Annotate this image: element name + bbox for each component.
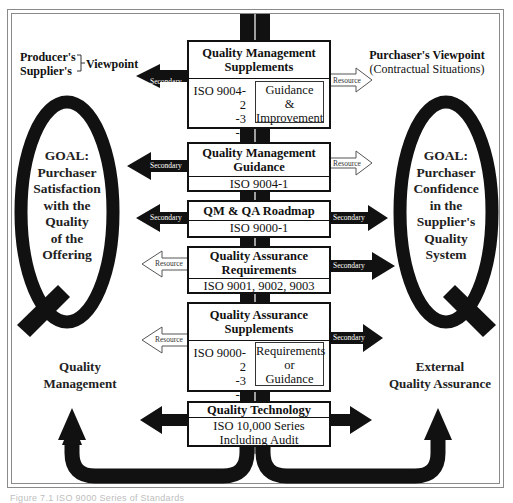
title-line: Quality Assurance [189,249,329,263]
title-line: Quality Management [189,46,329,60]
arrow-label-box3-left: Secondary [150,213,182,222]
arrow-label-box4-left: Resource [155,259,183,268]
iso-line: -3 [191,374,246,388]
title-line: QM & QA Roadmap [189,204,329,218]
box-title: Quality Assurance Supplements [189,304,329,336]
goal-line: of the [25,231,109,248]
right-up-arrowhead [424,408,452,440]
box-title: Quality Management Supplements [189,42,329,74]
arrow-box6-right [330,406,372,434]
inner-box-guidance-improvement: Guidance & Improvement [255,81,324,123]
title-line: Supplements [189,322,329,336]
box-title: Quality Management Guidance [189,144,329,174]
producer-label: Producer's [20,50,76,64]
arrow-label-box2-left: Secondary [150,161,182,170]
box-qm-qa-roadmap: QM & QA Roadmap ISO 9000-1 [187,200,331,238]
divider [189,78,329,79]
figure-caption: Figure 7.1 ISO 9000 Series of Standards [10,493,184,503]
iso-label: ISO 9004-1 [189,177,329,191]
purchaser-subtitle: (Contractual Situations) [347,62,507,76]
purchaser-viewpoint: Purchaser's Viewpoint (Contractual Situa… [347,48,507,76]
arrow-label-box4-right: Secondary [333,261,365,270]
goal-line: Supplier's [404,214,488,231]
box-quality-technology: Quality Technology ISO 10,000 Series Inc… [187,401,331,447]
arrow-label-box5-left: Resource [155,335,183,344]
goal-line: Confidence [404,181,488,198]
goal-right: GOAL: Purchaser Confidence in the Suppli… [404,148,488,264]
box-qa-requirements: Quality Assurance Requirements ISO 9001,… [187,246,331,294]
arrow-box6-left [140,406,188,434]
title-line: Supplements [189,60,329,74]
inner-line: Guidance [256,372,323,386]
box-qm-guidance: Quality Management Guidance ISO 9004-1 [187,142,331,192]
divider [189,340,329,341]
box-title: Quality Technology [189,403,329,417]
iso-label: ISO 9000-1 [189,221,329,235]
supplier-label: Supplier's [20,64,76,78]
arrow-label-box3-right: Secondary [333,213,365,222]
goal-line: Quality [404,231,488,248]
title-line: Quality Assurance [189,308,329,322]
iso-list-qm-supplements: ISO 9004-2 -3 -4 [191,84,246,140]
arrow-label-box1-left: Secondary [150,77,182,86]
iso-label: ISO 10,000 Series Including Audit [189,418,329,447]
label-line: Management [30,375,130,392]
goal-line: Offering [25,247,109,264]
iso-line: -4 [191,388,246,402]
goal-line: GOAL: [25,148,109,165]
iso-list-qa-supplements: ISO 9000-2 -3 -4 [191,346,246,402]
arrow-label-box5-right: Secondary [333,333,365,342]
box-title: QM & QA Roadmap [189,202,329,218]
goal-line: with the [25,198,109,215]
inner-box-requirements-guidance: Requirements or Guidance [255,342,324,386]
sub-line: Including Audit [189,433,329,447]
iso-line: ISO 9004-2 [191,84,246,112]
goal-line: Purchaser [25,165,109,182]
goal-line: in the [404,198,488,215]
box-title: Quality Assurance Requirements [189,248,329,277]
label-line: Quality Assurance [375,375,505,392]
inner-line: & [256,97,323,111]
external-qa-label: External Quality Assurance [375,358,505,392]
inner-line: Guidance [256,83,323,97]
bracket-icon [76,53,86,73]
quality-management-label: Quality Management [30,358,130,392]
goal-line: Quality [25,214,109,231]
iso-line: -4 [191,126,246,140]
goal-line: Purchaser [404,165,488,182]
label-line: Quality [30,358,130,375]
iso-label: ISO 9001, 9002, 9003 [189,279,329,293]
arrow-label-box1-right: Resource [333,76,361,85]
iso-line: -3 [191,112,246,126]
goal-left: GOAL: Purchaser Satisfaction with the Qu… [25,148,109,264]
label-line: External [375,358,505,375]
goal-line: Satisfaction [25,181,109,198]
arrow-label-box2-right: Resource [333,159,361,168]
goal-line: System [404,247,488,264]
title-line: Requirements [189,263,329,277]
inner-line: Improvement [256,111,323,125]
producer-viewpoint: Producer's Supplier's [20,50,76,78]
inner-line: Requirements [256,344,323,358]
title-line: Guidance [189,160,329,174]
title-line: Quality Management [189,146,329,160]
purchaser-title: Purchaser's Viewpoint [347,48,507,62]
goal-line: GOAL: [404,148,488,165]
sub-line: ISO 10,000 Series [189,419,329,433]
iso-line: ISO 9000-2 [191,346,246,374]
inner-line: or [256,358,323,372]
viewpoint-label: Viewpoint [86,57,138,71]
title-line: Quality Technology [189,403,329,417]
